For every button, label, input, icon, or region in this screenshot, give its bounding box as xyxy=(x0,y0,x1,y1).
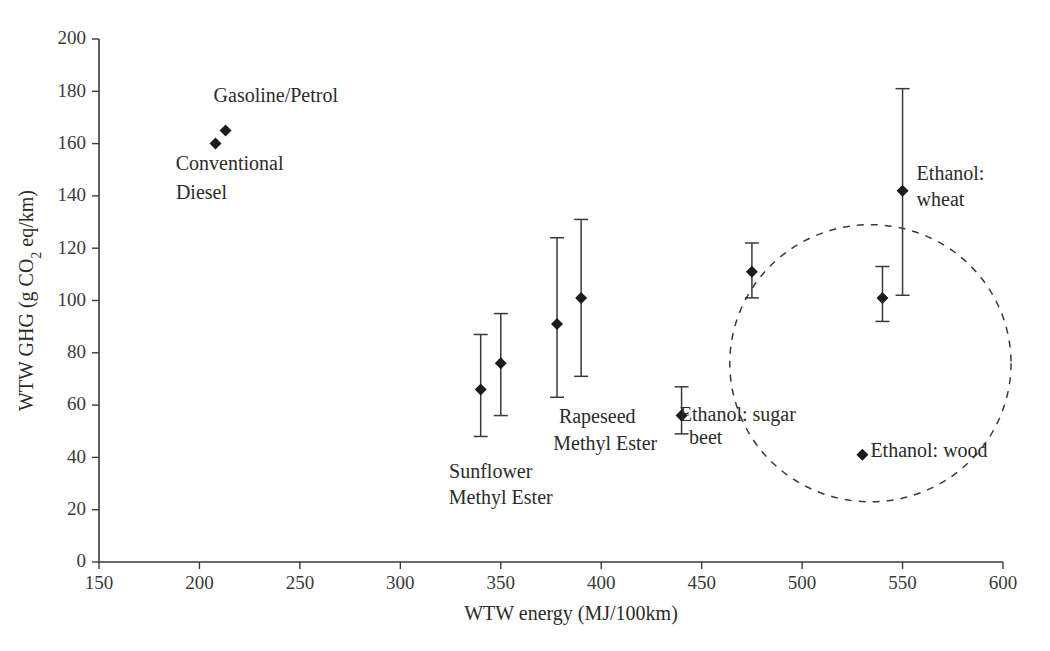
diamond-marker xyxy=(856,449,868,461)
diamond-marker xyxy=(551,318,563,330)
diamond-marker xyxy=(495,357,507,369)
y-tick-label: 100 xyxy=(58,289,87,310)
annotation-sunflower-2: Methyl Ester xyxy=(449,486,553,509)
diamond-marker xyxy=(220,125,232,137)
data-point xyxy=(210,138,222,150)
y-tick-label: 200 xyxy=(58,27,87,48)
y-tick-label: 120 xyxy=(58,237,87,258)
diamond-marker xyxy=(746,266,758,278)
x-tick-label: 550 xyxy=(888,572,917,593)
annotation-wood: Ethanol: wood xyxy=(870,439,987,461)
y-tick-label: 140 xyxy=(58,184,87,205)
data-point xyxy=(745,243,759,298)
x-tick-label: 300 xyxy=(386,572,415,593)
annotation-sugarbeet-1: Ethanol: sugar xyxy=(680,403,796,426)
axis-lines xyxy=(99,39,1003,562)
data-point xyxy=(550,238,564,398)
annotation-rapeseed-1: Rapeseed xyxy=(559,405,636,428)
y-tick-label: 60 xyxy=(67,393,86,414)
y-tick-label: 0 xyxy=(77,550,87,571)
diamond-marker xyxy=(897,185,909,197)
y-tick-label: 160 xyxy=(58,132,87,153)
x-tick-label: 200 xyxy=(185,572,214,593)
y-tick-label: 20 xyxy=(67,498,86,519)
annotation-sunflower-1: Sunflower xyxy=(449,460,533,482)
data-point xyxy=(494,314,508,416)
data-point xyxy=(896,89,910,296)
x-tick-label: 500 xyxy=(788,572,817,593)
x-tick-label: 350 xyxy=(487,572,516,593)
annotation-wheat-1: Ethanol: xyxy=(917,162,985,184)
data-point xyxy=(574,219,588,376)
y-tick-label: 180 xyxy=(58,80,87,101)
diamond-marker xyxy=(876,292,888,304)
data-point xyxy=(474,334,488,436)
y-tick-label: 40 xyxy=(67,446,86,467)
y-tick-label: 80 xyxy=(67,341,86,362)
annotation-wheat-2: wheat xyxy=(917,188,965,210)
chart-root: 0204060801001201401601802001502002503003… xyxy=(0,0,1050,651)
diamond-marker xyxy=(210,138,222,150)
x-tick-label: 400 xyxy=(587,572,616,593)
annotation-gasoline: Gasoline/Petrol xyxy=(214,84,339,106)
data-point xyxy=(875,267,889,322)
data-point xyxy=(220,125,232,137)
data-point xyxy=(856,449,868,461)
annotation-diesel-2: Diesel xyxy=(176,181,228,203)
diamond-marker xyxy=(575,292,587,304)
annotation-rapeseed-2: Methyl Ester xyxy=(553,432,657,455)
x-axis-title: WTW energy (MJ/100km) xyxy=(464,602,678,625)
x-tick-label: 250 xyxy=(286,572,315,593)
scatter-plot-svg: 0204060801001201401601802001502002503003… xyxy=(0,0,1050,651)
annotation-sugarbeet-2: beet xyxy=(689,426,723,448)
annotation-diesel-1: Conventional xyxy=(176,152,284,174)
x-tick-label: 600 xyxy=(989,572,1018,593)
x-tick-label: 150 xyxy=(85,572,114,593)
diamond-marker xyxy=(475,383,487,395)
y-axis-title: WTW GHG (g CO2 eq/km) xyxy=(15,190,44,411)
x-tick-label: 450 xyxy=(687,572,716,593)
